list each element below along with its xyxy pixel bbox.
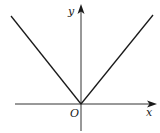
x-axis-label: x [146, 106, 153, 119]
function-graph: y O x [0, 0, 160, 133]
origin-label: O [70, 107, 79, 120]
left-branch-line [11, 16, 81, 104]
right-branch-line [81, 15, 153, 104]
y-axis-label: y [67, 5, 75, 18]
